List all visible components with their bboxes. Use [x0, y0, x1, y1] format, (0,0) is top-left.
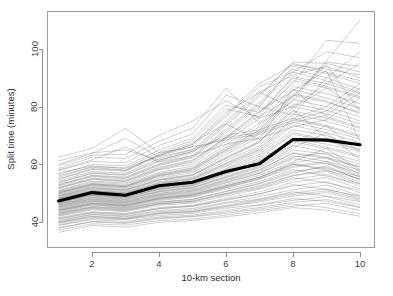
- y-tick-label: 80: [29, 101, 40, 112]
- spaghetti-plot-svg: 246810 406080100 10-km section Split tim…: [0, 0, 393, 296]
- x-tick-label: 8: [290, 258, 295, 269]
- x-tick-label: 4: [156, 258, 161, 269]
- runner-trajectory: [59, 111, 361, 196]
- runner-trajectory: [59, 208, 361, 233]
- y-tick-label: 60: [29, 159, 40, 170]
- y-tick-label: 100: [29, 41, 40, 57]
- runner-trajectory: [59, 65, 361, 193]
- x-tick-label: 6: [223, 258, 228, 269]
- x-axis: 246810: [89, 253, 365, 270]
- runner-trajectory-lines: [59, 20, 361, 232]
- y-axis: 406080100: [29, 41, 43, 227]
- runner-trajectory: [59, 107, 361, 196]
- x-tick-label: 2: [89, 258, 94, 269]
- y-axis-title: Split time (minutes): [5, 88, 16, 169]
- runner-trajectory: [59, 20, 361, 168]
- x-tick-label: 10: [355, 258, 366, 269]
- runner-trajectory: [59, 71, 361, 188]
- x-axis-title: 10-km section: [181, 272, 240, 283]
- y-tick-label: 40: [29, 217, 40, 228]
- chart-container: 246810 406080100 10-km section Split tim…: [0, 0, 393, 296]
